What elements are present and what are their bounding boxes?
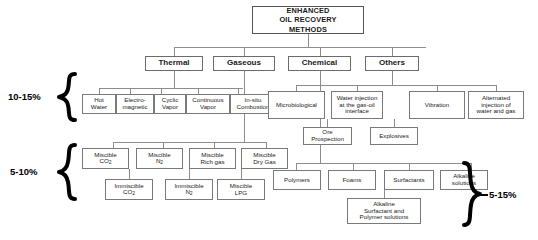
connector-chemical-drop-3 — [409, 163, 410, 170]
node-miscible-rich-gas: MiscibleRich gas — [189, 148, 236, 169]
node-miscible-lpg: MiscibleLPG — [217, 179, 265, 200]
connector-root-stem — [308, 34, 309, 47]
connector-chemical-bus — [296, 163, 471, 164]
connector-others-stem — [392, 71, 393, 85]
node-others: Others — [365, 56, 419, 71]
connector-drop-chemical — [320, 47, 321, 56]
node-thermal: Thermal — [145, 56, 203, 71]
node-alternated-injection-water-gas: Alternatedinjection ofwater and gas — [468, 91, 524, 119]
connector-gaseous-bus — [113, 142, 244, 143]
node-polymers: Polymers — [273, 170, 321, 190]
node-cyclic-vapor: CyclicVapor — [154, 94, 186, 114]
connector-drop-gaseous — [244, 47, 245, 56]
node-root-enhanced-oil-recovery-methods: ENHANCEDOIL RECOVERYMETHODS — [252, 6, 364, 34]
label-gaseous-recovery-percent: 5-10% — [10, 166, 37, 177]
node-foams: Foams — [328, 170, 376, 190]
node-vibration: Vibration — [409, 91, 465, 119]
connector-ore-prospection-drop — [327, 119, 328, 127]
root-label: ENHANCEDOIL RECOVERYMETHODS — [254, 6, 362, 34]
connector-miscible-lpg-drop — [241, 169, 242, 179]
node-hot-water: HotWater — [82, 94, 116, 114]
connector-chemical-drop-2 — [353, 163, 354, 170]
connector-gaseous-bus-right — [244, 142, 266, 143]
node-miscible-dry-gas: MiscibleDry Gas — [241, 148, 288, 169]
connector-thermal-stem — [174, 71, 175, 88]
node-alkaline-surfactant-polymer-solutions: AlkalineSurfactant andPolymer solutions — [347, 198, 421, 224]
node-explosives: Explosives — [370, 127, 418, 145]
connector-thermal-bus — [99, 88, 243, 89]
connector-immiscible-co2-drop — [129, 169, 130, 179]
label-thermal-recovery-percent: 10-15% — [8, 91, 41, 102]
connector-asp-drop — [384, 190, 385, 198]
brace-thermal — [55, 72, 77, 122]
node-gaseous: Gaseous — [213, 56, 275, 71]
node-water-injection-gas-oil-interface: Water injectionat the gas-oilinterface — [331, 91, 383, 119]
connector-others-bus — [296, 85, 496, 86]
brace-chemical — [462, 161, 484, 229]
connector-root-bus — [174, 47, 426, 48]
node-continuous-vapor: ContinuousVapor — [186, 94, 230, 114]
eor-methods-diagram: ENHANCEDOIL RECOVERYMETHODS Thermal Gase… — [0, 0, 538, 240]
node-surfactants: Surfactants — [384, 170, 434, 190]
connector-immiscible-n2-drop — [189, 169, 190, 179]
label-chemical-recovery-percent: 5-15% — [489, 189, 516, 200]
thermal-label: Thermal — [147, 59, 201, 68]
connector-chemical-drop-1 — [296, 163, 297, 170]
others-label: Others — [367, 59, 417, 68]
connector-explosives-drop — [394, 119, 395, 127]
node-miscible-n2: MiscibleN2 — [136, 148, 183, 169]
connector-drop-others — [392, 47, 393, 56]
chemical-label: Chemical — [290, 59, 349, 68]
connector-drop-thermal — [174, 47, 175, 56]
node-chemical: Chemical — [288, 56, 351, 71]
node-miscible-co2: MiscibleCO2 — [82, 148, 129, 169]
gaseous-label: Gaseous — [215, 59, 273, 68]
node-microbiological: Microbiological — [268, 91, 325, 119]
brace-gaseous — [55, 143, 77, 201]
node-immiscible-co2: ImmiscibleCO2 — [105, 179, 153, 200]
node-electro-magnetic: Electro-magnetic — [116, 94, 154, 114]
node-ore-prospection: OreProspection — [303, 127, 352, 145]
node-immiscible-n2: ImmiscibleN2 — [165, 179, 213, 200]
